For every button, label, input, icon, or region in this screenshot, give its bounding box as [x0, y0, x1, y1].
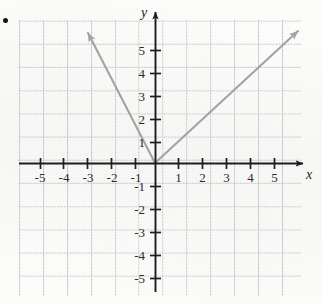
- x-tick-label-2: 2: [194, 171, 211, 184]
- x-tick-label--5: -5: [29, 171, 51, 184]
- y-tick-label-1: 1: [131, 136, 145, 149]
- x-tick-label--2: -2: [101, 171, 123, 184]
- y-tick-label--3: -3: [125, 226, 145, 239]
- y-tick-label-2: 2: [131, 113, 145, 126]
- y-tick-label--5: -5: [125, 272, 145, 285]
- x-tick-label--3: -3: [77, 171, 99, 184]
- x-tick-label-5: 5: [266, 171, 283, 184]
- curve-right-branch: [155, 31, 298, 163]
- figure-canvas: -5 -4 -3 -2 -1 1 2 3 4 5 5 4 3 2 1 -1 -2…: [0, 0, 322, 304]
- y-tick-label-5: 5: [131, 44, 145, 57]
- x-tick-label--4: -4: [53, 171, 75, 184]
- y-tick-label-3: 3: [131, 90, 145, 103]
- x-tick-label-3: 3: [218, 171, 235, 184]
- x-tick-label-1: 1: [170, 171, 187, 184]
- coordinate-plot: [0, 0, 322, 304]
- x-tick-label-4: 4: [242, 171, 259, 184]
- x-axis-label: x: [306, 168, 312, 182]
- y-tick-label-4: 4: [131, 67, 145, 80]
- y-tick-label--1: -1: [125, 180, 145, 193]
- y-tick-label--2: -2: [125, 203, 145, 216]
- y-tick-label--4: -4: [125, 249, 145, 262]
- y-axis-label: y: [141, 6, 147, 20]
- abs-value-curve: [88, 31, 298, 163]
